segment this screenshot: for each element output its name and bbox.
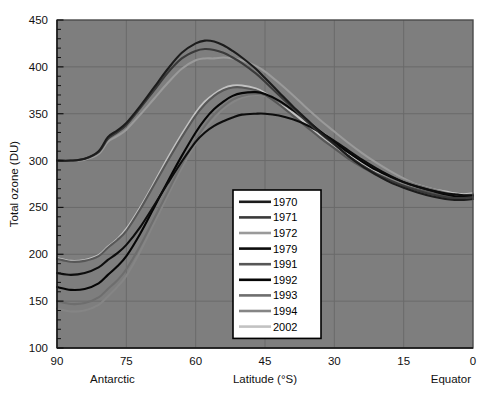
x-tick-label: 75 [120,355,133,367]
x-tick-label: 30 [328,355,341,367]
x-axis-title: Latitude (°S) [233,373,297,385]
legend-label-1991[interactable]: 1991 [273,258,297,270]
y-tick-label: 200 [29,248,48,260]
ozone-latitude-chart: 1001502002503003504004509075604530150Tot… [0,0,499,394]
legend-label-1994[interactable]: 1994 [273,305,297,317]
y-tick-label: 100 [29,342,48,354]
y-tick-label: 250 [29,201,48,213]
x-tick-label: 60 [189,355,202,367]
y-tick-label: 300 [29,155,48,167]
x-tick-label: 90 [51,355,64,367]
legend-label-2002[interactable]: 2002 [273,321,297,333]
x-tick-label: 45 [259,355,272,367]
legend-label-1972[interactable]: 1972 [273,227,297,239]
y-tick-label: 350 [29,108,48,120]
legend-label-1992[interactable]: 1992 [273,274,297,286]
equator-annotation: Equator [431,373,471,385]
y-tick-label: 150 [29,295,48,307]
y-axis-title: Total ozone (DU) [8,141,20,227]
y-tick-label: 400 [29,61,48,73]
x-tick-label: 15 [397,355,410,367]
legend-label-1993[interactable]: 1993 [273,289,297,301]
antarctic-annotation: Antarctic [90,373,135,385]
y-tick-label: 450 [29,14,48,26]
chart-legend[interactable]: 197019711972197919911992199319942002 [233,190,321,338]
legend-label-1971[interactable]: 1971 [273,211,297,223]
x-tick-label: 0 [470,355,476,367]
legend-label-1979[interactable]: 1979 [273,243,297,255]
legend-label-1970[interactable]: 1970 [273,196,297,208]
